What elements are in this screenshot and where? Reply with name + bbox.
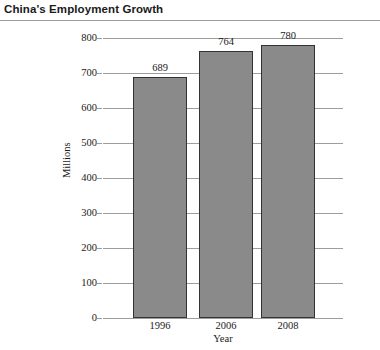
y-axis-tick-label: 100 bbox=[81, 278, 97, 289]
y-axis-tick-mark bbox=[97, 213, 102, 214]
chart-figure: China's Employment Growth 01002003004005… bbox=[0, 0, 380, 350]
y-axis-tick-mark bbox=[97, 73, 102, 74]
y-axis-tick-label: 800 bbox=[81, 33, 97, 44]
y-axis-tick-label: 600 bbox=[81, 103, 97, 114]
bar-value-label: 780 bbox=[261, 31, 315, 42]
bar bbox=[133, 77, 187, 318]
bar-value-label: 764 bbox=[199, 37, 253, 48]
y-axis-tick-mark bbox=[97, 108, 102, 109]
x-axis-tick-label: 2006 bbox=[199, 321, 253, 332]
x-axis-tick-label: 2008 bbox=[261, 321, 315, 332]
chart-title: China's Employment Growth bbox=[4, 3, 163, 15]
bar bbox=[199, 51, 253, 318]
title-divider bbox=[0, 20, 380, 21]
y-axis-tick-label: 500 bbox=[81, 138, 97, 149]
y-axis-tick-mark bbox=[97, 248, 102, 249]
bar-value-label: 689 bbox=[133, 63, 187, 74]
y-axis-tick-mark bbox=[97, 318, 102, 319]
plot-area: 689764780 bbox=[103, 38, 343, 318]
y-axis-tick-mark bbox=[97, 38, 102, 39]
y-axis-tick-label: 700 bbox=[81, 68, 97, 79]
y-axis-title: Millions bbox=[62, 164, 73, 178]
y-axis-tick-label: 400 bbox=[81, 173, 97, 184]
y-axis-tick-mark bbox=[97, 178, 102, 179]
y-axis-tick-label: 300 bbox=[81, 208, 97, 219]
y-axis-tick-label: 200 bbox=[81, 243, 97, 254]
gridline bbox=[103, 318, 343, 319]
bar bbox=[261, 45, 315, 318]
y-axis-tick-mark bbox=[97, 143, 102, 144]
y-axis-tick-labels: 0100200300400500600700800 bbox=[60, 38, 97, 318]
y-axis-tick-mark bbox=[97, 283, 102, 284]
x-axis-title: Year bbox=[103, 334, 343, 345]
x-axis-tick-label: 1996 bbox=[133, 321, 187, 332]
